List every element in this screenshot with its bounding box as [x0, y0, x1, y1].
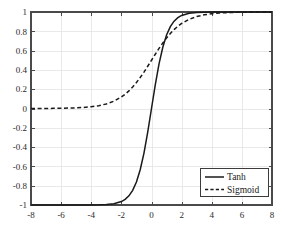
y-tick-label: 0.6 [16, 46, 28, 56]
y-tick-label: 1 [23, 7, 28, 17]
y-tick-label: -0.8 [13, 181, 28, 191]
x-tick-label: -6 [57, 210, 65, 220]
x-tick-label: 6 [240, 210, 245, 220]
y-tick-label: -0.2 [13, 123, 27, 133]
y-tick-label: 0 [23, 104, 28, 114]
x-tick-label: 8 [270, 210, 275, 220]
y-tick-label: -0.4 [13, 142, 28, 152]
y-tick-label: 0.2 [16, 84, 27, 94]
x-tick-label: 2 [179, 210, 184, 220]
x-tick-label: 4 [210, 210, 215, 220]
legend-label-sigmoid[interactable]: Sigmoid [227, 185, 259, 195]
y-tick-label: 0.8 [16, 27, 28, 37]
y-tick-label: -0.6 [13, 162, 28, 172]
activation-functions-line-chart: 10.80.60.40.20-0.2-0.4-0.6-0.8-1 -8-6-4-… [0, 0, 285, 229]
x-tick-label: -2 [118, 210, 126, 220]
x-tick-label: -8 [27, 210, 35, 220]
legend-label-tanh[interactable]: Tanh [227, 172, 246, 182]
chart-legend[interactable]: TanhSigmoid [201, 169, 269, 197]
y-tick-label: -1 [20, 200, 28, 210]
x-tick-label: 0 [149, 210, 154, 220]
y-tick-label: 0.4 [16, 65, 28, 75]
chart-figure: 10.80.60.40.20-0.2-0.4-0.6-0.8-1 -8-6-4-… [0, 0, 285, 229]
x-tick-label: -4 [88, 210, 96, 220]
